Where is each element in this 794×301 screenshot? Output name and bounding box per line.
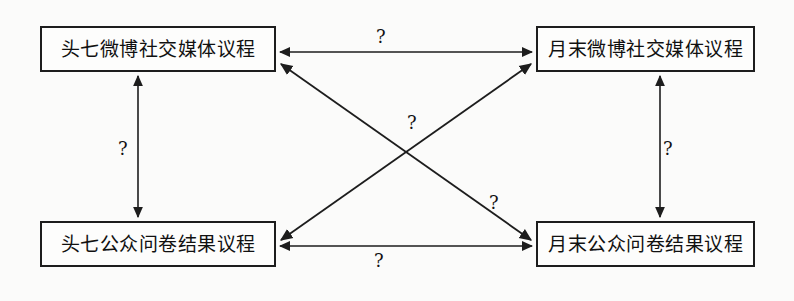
- node-top-left[interactable]: 头七微博社交媒体议程: [40, 26, 276, 72]
- node-bottom-left[interactable]: 头七公众问卷结果议程: [40, 221, 276, 267]
- edge-label-top: ?: [376, 26, 386, 47]
- node-bottom-right-label: 月末公众问卷结果议程: [548, 235, 743, 254]
- node-top-right[interactable]: 月末微博社交媒体议程: [536, 26, 755, 72]
- node-top-left-label: 头七微博社交媒体议程: [61, 40, 256, 59]
- node-bottom-right[interactable]: 月末公众问卷结果议程: [536, 221, 755, 267]
- edge-label-bottom: ?: [374, 250, 384, 271]
- edge-label-right: ?: [663, 138, 673, 159]
- diagram-canvas: 头七微博社交媒体议程 月末微博社交媒体议程 头七公众问卷结果议程 月末公众问卷结…: [0, 0, 794, 301]
- edge-label-diagonal-lower: ?: [489, 192, 499, 213]
- edge-label-diagonal-center: ?: [407, 112, 417, 133]
- node-top-right-label: 月末微博社交媒体议程: [548, 40, 743, 59]
- edge-label-left: ?: [118, 138, 128, 159]
- node-bottom-left-label: 头七公众问卷结果议程: [61, 235, 256, 254]
